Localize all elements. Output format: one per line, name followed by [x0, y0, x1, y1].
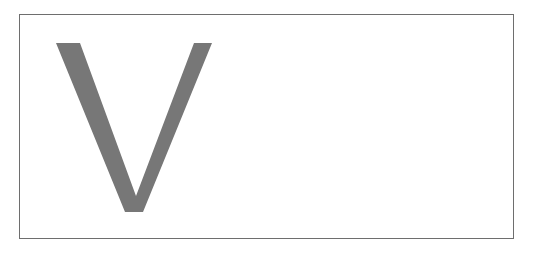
- letter-v-shape: [56, 43, 212, 212]
- letter-v-glyph: [0, 0, 542, 255]
